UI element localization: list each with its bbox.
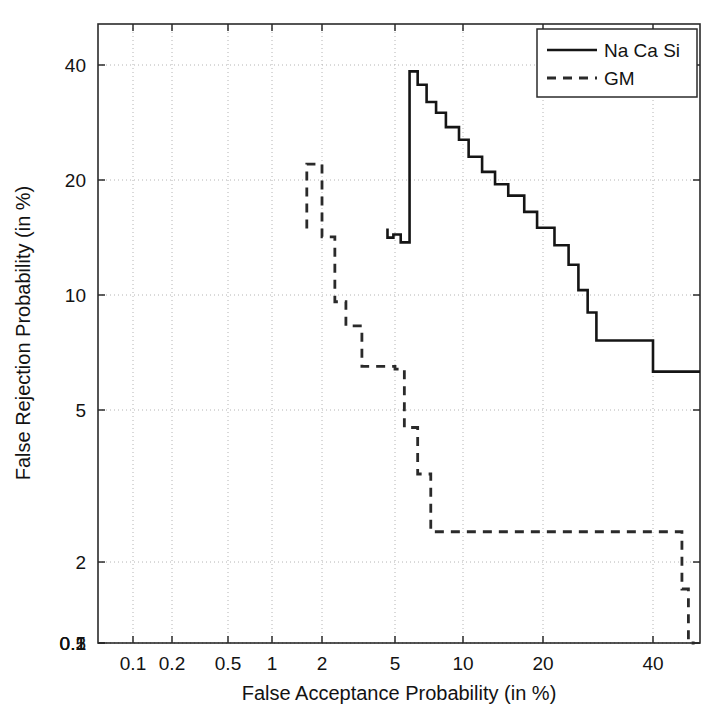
plot-frame bbox=[98, 24, 700, 643]
x-tick-label: 5 bbox=[390, 653, 401, 674]
grid-lines bbox=[98, 24, 700, 643]
legend-label-gm: GM bbox=[604, 68, 635, 89]
y-tick-label: 5 bbox=[75, 400, 86, 421]
y-tick-label: 1 bbox=[75, 633, 86, 654]
x-tick-label: 10 bbox=[452, 653, 473, 674]
y-tick-label: 20 bbox=[65, 170, 86, 191]
series-line-gm bbox=[307, 164, 695, 643]
y-tick-label: 2 bbox=[75, 552, 86, 573]
x-tick-labels: 0.10.20.5125102040 bbox=[120, 653, 664, 674]
x-tick-label: 1 bbox=[267, 653, 278, 674]
y-tick-label: 40 bbox=[65, 55, 86, 76]
x-tick-label: 0.1 bbox=[120, 653, 146, 674]
legend-label-na-ca-si: Na Ca Si bbox=[604, 40, 680, 61]
tick-marks bbox=[98, 24, 700, 643]
x-tick-label: 0.5 bbox=[215, 653, 241, 674]
det-plot-canvas: 0.10.20.5125102040 0.10.20.5125102040 Fa… bbox=[0, 0, 720, 727]
y-tick-labels: 0.10.20.5125102040 bbox=[60, 55, 86, 654]
legend: Na Ca Si GM bbox=[537, 29, 697, 97]
x-tick-label: 0.2 bbox=[159, 653, 185, 674]
det-curve-figure: 0.10.20.5125102040 0.10.20.5125102040 Fa… bbox=[0, 0, 720, 727]
x-tick-label: 40 bbox=[642, 653, 663, 674]
x-axis-title: False Acceptance Probability (in %) bbox=[242, 682, 557, 704]
y-axis-title: False Rejection Probability (in %) bbox=[12, 186, 34, 481]
x-tick-label: 2 bbox=[317, 653, 328, 674]
y-tick-label: 10 bbox=[65, 285, 86, 306]
x-tick-label: 20 bbox=[532, 653, 553, 674]
